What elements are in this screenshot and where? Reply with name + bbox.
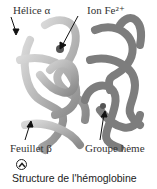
helix-alpha-label: Hélice α [13,4,50,16]
figure-caption: Structure de l'hémoglobine [12,172,137,184]
chevron-up-circle-icon[interactable] [16,159,27,170]
chevron-up-icon [18,161,26,169]
beta-sheet-label: Feuillet β [10,142,52,154]
iron-ion-label: Ion Fe²⁺ [87,4,125,17]
heme-group-label: Groupe hème [85,142,145,154]
